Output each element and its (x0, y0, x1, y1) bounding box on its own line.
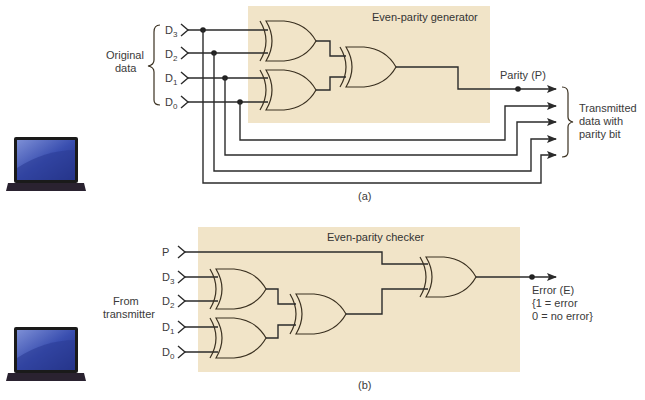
generator-title: Even-parity generator (372, 11, 478, 23)
svg-text:D0: D0 (162, 346, 175, 361)
even-parity-checker: Even-parity checker From transmitter P D… (103, 227, 593, 391)
error-label: Error (E) (532, 284, 574, 296)
parity-label: Parity (P) (500, 69, 546, 81)
input-labels-a: D3 D2 D1 D0 (165, 24, 178, 111)
svg-text:D1: D1 (162, 321, 175, 336)
error-legend: 0 = no error} (532, 310, 593, 322)
checker-panel (198, 227, 520, 372)
parity-diagram: Even-parity generator Original data D3 D… (0, 0, 645, 400)
transmitted-label: parity bit (579, 128, 621, 140)
svg-text:D0: D0 (165, 96, 178, 111)
even-parity-generator: Even-parity generator Original data D3 D… (106, 6, 637, 202)
caption-a: (a) (358, 190, 371, 202)
svg-text:D2: D2 (165, 48, 178, 63)
original-data-label: data (115, 62, 137, 74)
input-labels-b: P D3 D2 D1 D0 (162, 246, 175, 361)
svg-text:P: P (162, 246, 169, 258)
svg-text:D3: D3 (162, 271, 175, 286)
original-data-label: Original (106, 49, 144, 61)
svg-text:D3: D3 (165, 24, 178, 39)
transmitted-label: Transmitted (579, 102, 637, 114)
svg-text:D2: D2 (162, 295, 175, 310)
laptop-icon (6, 137, 86, 191)
error-legend: {1 = error (532, 297, 578, 309)
transmitted-label: data with (579, 115, 623, 127)
laptop-icon (6, 327, 86, 381)
svg-text:D1: D1 (165, 72, 178, 87)
checker-title: Even-parity checker (327, 231, 425, 243)
from-transmitter-label: transmitter (103, 308, 155, 320)
generator-panel (248, 6, 490, 123)
from-transmitter-label: From (113, 295, 139, 307)
caption-b: (b) (358, 379, 371, 391)
